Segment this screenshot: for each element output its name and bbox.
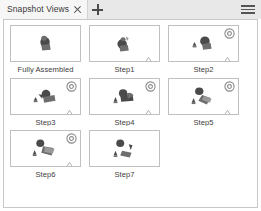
tab-bar: Snapshot Views — [0, 0, 261, 19]
snapshot-thumbnail[interactable] — [89, 25, 160, 62]
snapshot-label: Fully Assembled — [10, 62, 81, 74]
snapshot-thumbnail[interactable] — [168, 25, 239, 62]
triangle-marker-icon[interactable] — [222, 56, 233, 62]
model-preview-image — [11, 26, 80, 61]
menu-line — [241, 9, 255, 11]
tab-snapshot-views[interactable]: Snapshot Views — [0, 0, 88, 19]
model-preview-image — [90, 131, 159, 166]
snapshot-label: Step4 — [89, 115, 160, 127]
tab-bar-filler — [103, 0, 239, 19]
snapshot-cell: Step3 — [10, 78, 89, 127]
triangle-marker-icon[interactable] — [222, 109, 233, 115]
rotate-icon[interactable] — [66, 81, 77, 92]
plus-icon[interactable] — [92, 4, 103, 15]
snapshot-label: Step2 — [168, 62, 239, 74]
snapshot-thumbnail[interactable] — [10, 25, 81, 62]
snapshot-views-panel: Snapshot Views Fully AssembledStep1Step2… — [0, 0, 261, 211]
snapshot-thumbnail[interactable] — [89, 130, 160, 167]
snapshot-label: Step1 — [89, 62, 160, 74]
snapshot-cell: Step6 — [10, 130, 89, 179]
triangle-marker-icon[interactable] — [143, 109, 154, 115]
hamburger-menu-icon[interactable] — [239, 0, 257, 19]
snapshot-label: Step5 — [168, 115, 239, 127]
tab-label: Snapshot Views — [7, 5, 69, 14]
snapshot-grid-panel: Fully AssembledStep1Step2Step3Step4Step5… — [3, 19, 258, 208]
snapshot-cell: Step4 — [89, 78, 168, 127]
triangle-marker-icon[interactable] — [64, 109, 75, 115]
snapshot-thumbnail[interactable] — [10, 130, 81, 167]
snapshot-cell: Step1 — [89, 25, 168, 74]
snapshot-cell: Step2 — [168, 25, 247, 74]
menu-line — [241, 5, 255, 7]
snapshot-label: Step6 — [10, 167, 81, 179]
rotate-icon[interactable] — [224, 28, 235, 39]
snapshot-thumbnail[interactable] — [89, 78, 160, 115]
snapshot-cell: Fully Assembled — [10, 25, 89, 74]
snapshot-label: Step3 — [10, 115, 81, 127]
close-icon[interactable] — [73, 5, 82, 14]
snapshot-grid: Fully AssembledStep1Step2Step3Step4Step5… — [4, 20, 257, 183]
triangle-marker-icon[interactable] — [64, 161, 75, 167]
snapshot-cell: Step7 — [89, 130, 168, 179]
rotate-icon[interactable] — [224, 81, 235, 92]
snapshot-label: Step7 — [89, 167, 160, 179]
menu-line — [241, 12, 255, 14]
rotate-icon[interactable] — [145, 81, 156, 92]
snapshot-cell: Step5 — [168, 78, 247, 127]
snapshot-thumbnail[interactable] — [168, 78, 239, 115]
rotate-icon[interactable] — [66, 133, 77, 144]
triangle-marker-icon[interactable] — [143, 56, 154, 62]
snapshot-thumbnail[interactable] — [10, 78, 81, 115]
